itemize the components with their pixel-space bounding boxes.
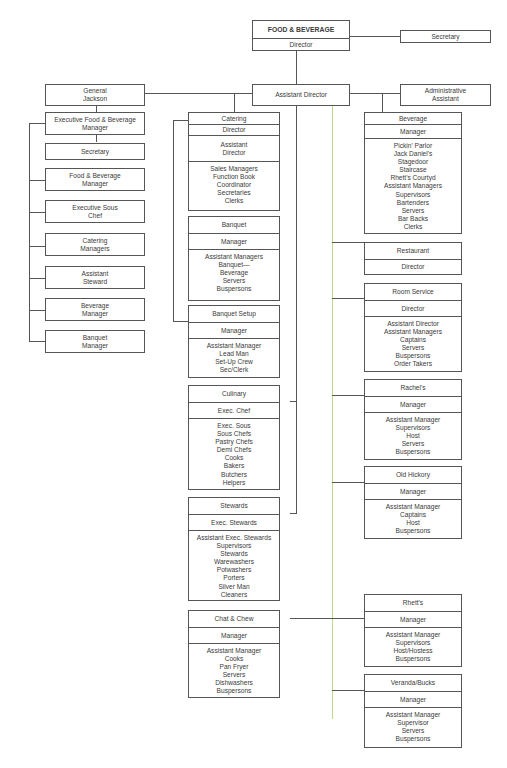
connector (332, 482, 366, 483)
staff-item: Butchers (191, 471, 277, 479)
staff-item: Assistant Director (367, 320, 459, 328)
staff-item: Cleaners (191, 591, 277, 599)
dept-sub: Assistant Director (189, 135, 279, 161)
dept-name: Old Hickory (365, 467, 461, 483)
secretary-label: Secretary (401, 31, 490, 42)
dept-name: Culinary (189, 386, 279, 402)
connector (332, 690, 366, 691)
dept-head: Manager (189, 627, 279, 643)
staff-item: Supervisors (367, 424, 459, 432)
staff-item: Sous Chefs (191, 430, 277, 438)
beverage-box: Beverage Manager Pickin' Parlor Jack Dan… (364, 112, 462, 234)
staff-item: Supervisors (367, 639, 459, 647)
staff-item: Assistant Managers (367, 182, 459, 190)
dept-name: Banquet Setup (189, 306, 279, 322)
staff-item: Stewards (191, 550, 277, 558)
gj-item-label: Catering Managers (46, 234, 144, 255)
staff-item: Bakers (191, 462, 277, 470)
connector (349, 93, 401, 94)
dept-name: Banquet (189, 217, 279, 233)
staff-item: Buspersons (191, 285, 277, 293)
staff-item: Secretaries (191, 189, 277, 197)
dept-head: Manager (365, 611, 461, 627)
staff-item: Warewashers (191, 558, 277, 566)
dept-name: Room Service (365, 284, 461, 300)
dept-head: Manager (365, 483, 461, 499)
staff-item: Banquet— (191, 261, 277, 269)
staff-item: Jack Daniel's (367, 150, 459, 158)
administrative-assistant-label: Administrative Assistant (401, 85, 490, 105)
staff-item: Buspersons (367, 735, 459, 743)
dept-head: Exec. Chef (189, 402, 279, 418)
staff-item: Assistant Manager (367, 503, 459, 511)
staff-item: Clerks (191, 197, 277, 205)
connector (296, 50, 297, 85)
secretary-box: Secretary (400, 30, 491, 43)
chat-and-chew-box: Chat & Chew Manager Assistant Manager Co… (188, 610, 280, 698)
connector (29, 278, 46, 279)
gj-item-box: Banquet Manager (45, 330, 145, 353)
connector (349, 36, 401, 37)
gj-item-box: Executive Sous Chef (45, 200, 145, 223)
banquet-setup-box: Banquet Setup Manager Assistant Manager … (188, 305, 280, 378)
administrative-assistant-box: Administrative Assistant (400, 84, 491, 106)
general-jackson-label: General Jackson (46, 85, 144, 105)
dept-head: Director (365, 300, 461, 316)
dept-head: Director (189, 124, 279, 135)
staff-item: Assistant Manager (191, 647, 277, 655)
staff-item: Demi Chefs (191, 446, 277, 454)
stewards-box: Stewards Exec. Stewards Assistant Exec. … (188, 497, 280, 601)
gj-item-box: Catering Managers (45, 233, 145, 256)
connector (234, 93, 235, 112)
staff-item: Helpers (191, 479, 277, 487)
staff-item: Bar Backs (367, 215, 459, 223)
gj-item-label: Executive Food & Beverage Manager (46, 113, 144, 134)
old-hickory-box: Old Hickory Manager Assistant Manager Ca… (364, 466, 462, 539)
assistant-director-box: Assistant Director (252, 84, 350, 106)
staff-item: Set-Up Crew (191, 358, 277, 366)
staff-item: Staircase (367, 166, 459, 174)
staff-item: Pan Fryer (191, 663, 277, 671)
gj-item-box: Assistant Steward (45, 266, 145, 289)
connector (382, 93, 383, 112)
connector (332, 105, 333, 719)
restaurant-box: Restaurant Director (364, 242, 462, 275)
staff-item: Silver Man (191, 583, 277, 591)
connector (29, 310, 46, 311)
gj-item-label: Secretary (46, 144, 144, 159)
staff-item: Buspersons (367, 352, 459, 360)
staff-item: Assistant Managers (191, 253, 277, 261)
staff-item: Coordinator (191, 181, 277, 189)
staff-item: Exec. Sous (191, 422, 277, 430)
staff-item: Supervisors (367, 191, 459, 199)
culinary-box: Culinary Exec. Chef Exec. Sous Sous Chef… (188, 385, 280, 490)
dept-head: Exec. Stewards (189, 514, 279, 530)
dept-name: Rachel's (365, 380, 461, 396)
dept-name: Veranda/Bucks (365, 675, 461, 691)
staff-item: Buspersons (367, 448, 459, 456)
staff-item: Servers (367, 727, 459, 735)
staff-item: Servers (191, 671, 277, 679)
staff-item: Supervisors (191, 542, 277, 550)
staff-item: Sales Managers (191, 165, 277, 173)
veranda-bucks-box: Veranda/Bucks Manager Assistant Manager … (364, 674, 462, 748)
staff-item: Assistant Managers (367, 328, 459, 336)
director-label: Director (253, 38, 349, 51)
staff-item: Function Book (191, 173, 277, 181)
staff-item: Dishwashers (191, 679, 277, 687)
dept-head: Manager (365, 396, 461, 412)
connector (29, 123, 46, 124)
staff-item: Sec/Clerk (191, 366, 277, 374)
rachels-box: Rachel's Manager Assistant Manager Super… (364, 379, 462, 460)
gj-item-box: Executive Food & Beverage Manager (45, 112, 145, 135)
gj-item-label: Assistant Steward (46, 267, 144, 288)
connector (296, 105, 297, 514)
division-title: FOOD & BEVERAGE (253, 21, 349, 38)
connector (29, 180, 46, 181)
dept-name: Beverage (365, 113, 461, 124)
connector (29, 341, 46, 342)
staff-item: Assistant Manager (367, 631, 459, 639)
dept-head: Manager (189, 322, 279, 338)
connector (332, 298, 366, 299)
staff-item: Captains (367, 511, 459, 519)
